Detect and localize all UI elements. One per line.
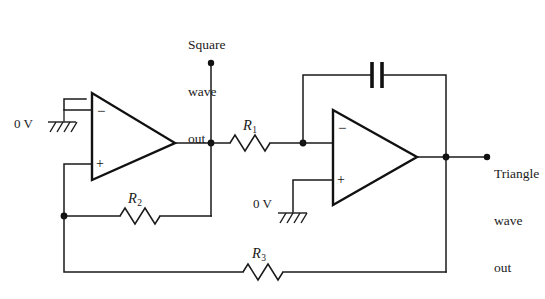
r2-label: R2 [128,190,142,209]
square-wave-label-line-2: wave [188,84,226,100]
square-wave-label-line-1: Square [188,37,226,53]
opamp-2-inverting-sign: − [338,121,346,136]
opamp-1-inverting-sign: − [97,104,105,119]
opamp-2-noninverting-input-wire [293,180,333,212]
schematic-svg [0,0,545,299]
bottom-left-rail-wire [64,216,243,272]
triangle-wave-output-terminal [484,154,490,160]
opamp-1-noninverting-sign: + [96,157,104,171]
square-wave-label-line-3: out [188,131,226,147]
r1-label: R1 [243,117,257,136]
square-wave-output-label: Square wave out [188,6,226,178]
opamp-1-inverting-input-wire [64,99,92,110]
circuit-diagram: Square wave out Triangle wave out 0 V 0 … [0,0,545,299]
triangle-wave-label-line-3: out [494,260,539,276]
r1-resistor-body [230,135,270,151]
r1-subscript: 1 [252,125,257,135]
triangle-wave-label-line-1: Triangle [494,166,539,182]
ground-left-label: 0 V [14,116,33,131]
opamp-1-noninverting-input-wire [64,164,92,216]
r3-label: R3 [252,245,266,264]
ground-left-icon [48,122,77,132]
r3-symbol: R [252,245,261,261]
r1-symbol: R [243,117,252,133]
r2-resistor-body [120,208,160,224]
ground-right-label: 0 V [253,196,272,211]
opamp-2-noninverting-sign: + [337,173,345,187]
triangle-wave-label-line-2: wave [494,213,539,229]
ground-right-icon [278,213,307,223]
triangle-wave-output-label: Triangle wave out [494,135,539,299]
r3-subscript: 3 [261,253,266,263]
r2-subscript: 2 [137,198,142,208]
r2-symbol: R [128,190,137,206]
r3-resistor-body [243,264,283,280]
